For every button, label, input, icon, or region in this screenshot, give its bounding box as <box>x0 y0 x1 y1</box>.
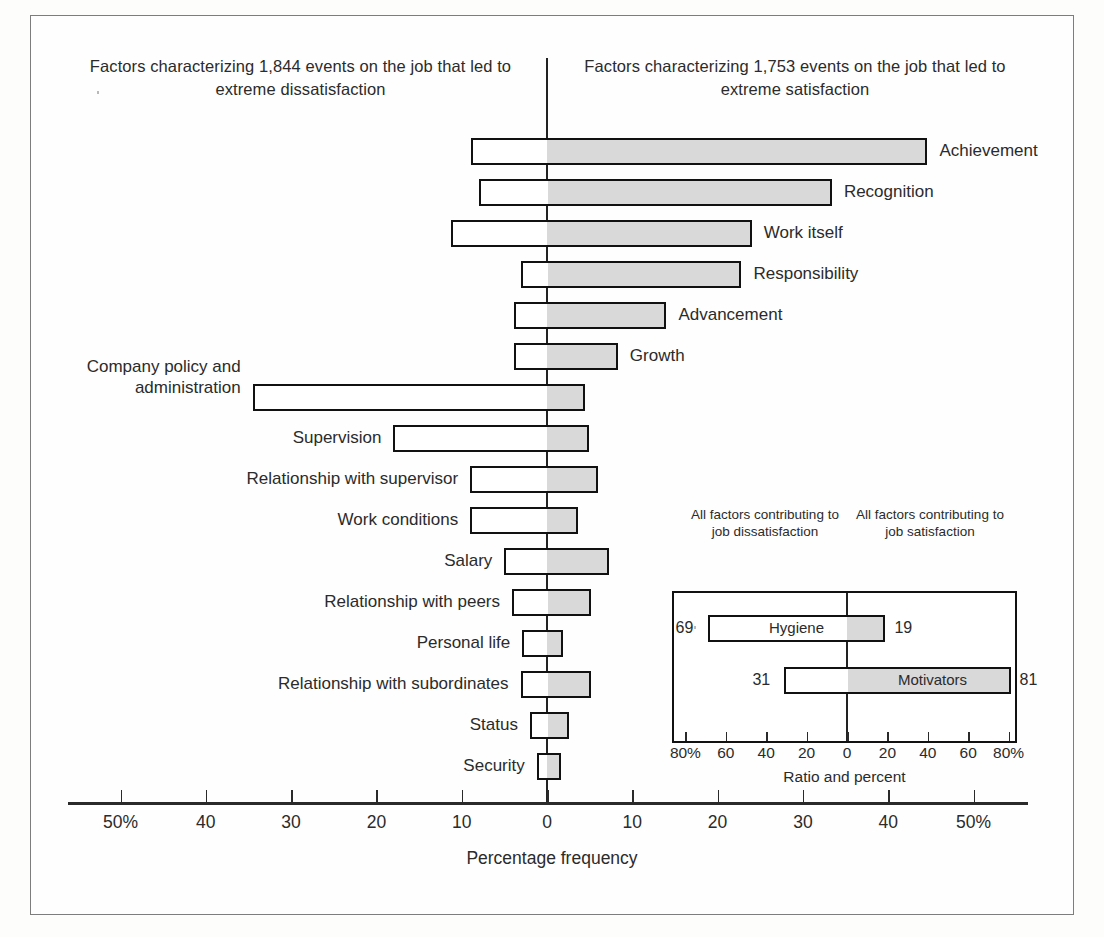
bar-negative-segment <box>395 427 546 450</box>
inset-axis-tick-label: 40 <box>743 744 789 762</box>
scan-speck <box>97 91 99 94</box>
inset-axis-tick <box>1009 732 1011 741</box>
bar-label: Responsibility <box>753 264 858 284</box>
inset-bar-label: Hygiene <box>710 617 884 639</box>
inset-axis-tick-label: 80% <box>662 744 708 762</box>
bar-company-policy-and-administration <box>253 384 585 411</box>
bar-status <box>530 712 569 739</box>
inset-axis-tick-label: 60 <box>703 744 749 762</box>
inset-negative-value: 69 <box>676 619 694 637</box>
inset-axis-tick <box>968 732 970 741</box>
inset-bar-label: Motivators <box>786 669 1008 691</box>
inset-axis-tick <box>766 732 768 741</box>
bar-negative-segment <box>539 755 547 778</box>
bar-work-itself <box>451 220 752 247</box>
inset-axis-tick-label: 20 <box>864 744 910 762</box>
x-axis-tick-label: 0 <box>517 812 577 833</box>
bar-negative-segment <box>506 550 546 573</box>
bar-negative-segment <box>524 632 546 655</box>
bar-label: Personal life <box>417 633 511 653</box>
bar-personal-life <box>522 630 563 657</box>
bar-label: Advancement <box>678 305 782 325</box>
bar-relationship-with-subordinates <box>521 671 592 698</box>
inset-negative-value: 31 <box>752 671 770 689</box>
inset-axis-tick <box>807 732 809 741</box>
x-axis-tick <box>547 790 549 803</box>
x-axis-tick-label: 40 <box>176 812 236 833</box>
bar-label: Growth <box>630 346 685 366</box>
x-axis-tick <box>376 790 378 803</box>
inset-axis-title: Ratio and percent <box>672 768 1017 786</box>
bar-label: Relationship with supervisor <box>247 469 459 489</box>
inset-axis-tick <box>887 732 889 741</box>
bar-negative-segment <box>255 386 547 409</box>
bar-label: Relationship with subordinates <box>278 674 509 694</box>
bar-positive-segment <box>548 181 830 204</box>
x-axis-title: Percentage frequency <box>0 848 1104 869</box>
inset-positive-value: 19 <box>894 619 912 637</box>
bar-positive-segment <box>547 140 925 163</box>
bar-positive-segment <box>547 222 749 245</box>
bar-label: Work itself <box>764 223 843 243</box>
bar-negative-segment <box>472 468 546 491</box>
bar-label: Achievement <box>939 141 1037 161</box>
chart-canvas: Factors characterizing 1,844 events on t… <box>0 0 1104 937</box>
x-axis-tick-label: 10 <box>602 812 662 833</box>
inset-bar-motivators: Motivators <box>784 667 1010 694</box>
bar-negative-segment <box>514 591 546 614</box>
x-axis-tick <box>206 790 208 803</box>
left-column-header: Factors characterizing 1,844 events on t… <box>78 55 523 101</box>
bar-positive-segment <box>547 345 615 368</box>
bar-relationship-with-supervisor <box>470 466 598 493</box>
bar-label: Work conditions <box>338 510 459 530</box>
x-axis-tick-label: 30 <box>773 812 833 833</box>
inset-axis-tick-label: 0 <box>824 744 870 762</box>
inset-left-header: All factors contributing to job dissatis… <box>685 506 845 540</box>
x-axis-tick <box>291 790 293 803</box>
x-axis-tick <box>121 790 123 803</box>
inset-right-header: All factors contributing to job satisfac… <box>850 506 1010 540</box>
bar-label: Status <box>470 715 518 735</box>
inset-axis-tick-label: 40 <box>905 744 951 762</box>
inset-axis-tick <box>685 732 687 741</box>
bar-label: Security <box>463 756 524 776</box>
x-axis-tick <box>632 790 634 803</box>
bar-negative-segment <box>472 509 546 532</box>
x-axis-tick <box>462 790 464 803</box>
inset-axis-tick-label: 80% <box>986 744 1032 762</box>
bar-negative-segment <box>516 304 547 327</box>
x-axis-tick-label: 50% <box>944 812 1004 833</box>
bar-negative-segment <box>523 263 546 286</box>
bar-label: Company policy and administration <box>61 356 241 398</box>
bar-positive-segment <box>547 427 586 450</box>
scan-speck <box>694 626 696 629</box>
bar-negative-segment <box>516 345 547 368</box>
bar-salary <box>504 548 609 575</box>
right-column-header: Factors characterizing 1,753 events on t… <box>570 55 1020 101</box>
x-axis-tick <box>718 790 720 803</box>
inset-axis-tick <box>928 732 930 741</box>
bar-negative-segment <box>453 222 547 245</box>
bar-label: Salary <box>444 551 492 571</box>
bar-work-conditions <box>470 507 577 534</box>
bar-growth <box>514 343 618 370</box>
x-axis-tick <box>803 790 805 803</box>
x-axis-tick-label: 10 <box>432 812 492 833</box>
bar-responsibility <box>521 261 741 288</box>
bar-positive-segment <box>547 550 607 573</box>
bar-relationship-with-peers <box>512 589 591 616</box>
inset-bar-hygiene: Hygiene <box>708 615 886 642</box>
x-axis-tick-label: 40 <box>858 812 918 833</box>
inset-axis-tick <box>847 732 849 741</box>
bar-label: Recognition <box>844 182 934 202</box>
bar-positive-segment <box>547 386 582 409</box>
inset-positive-value: 81 <box>1020 671 1038 689</box>
x-axis-tick-label: 50% <box>91 812 151 833</box>
bar-label: Supervision <box>293 428 382 448</box>
bar-negative-segment <box>523 673 547 696</box>
bar-positive-segment <box>547 632 561 655</box>
x-axis-tick-label: 30 <box>261 812 321 833</box>
bar-positive-segment <box>547 755 558 778</box>
bar-negative-segment <box>532 714 547 737</box>
x-axis-tick <box>974 790 976 803</box>
